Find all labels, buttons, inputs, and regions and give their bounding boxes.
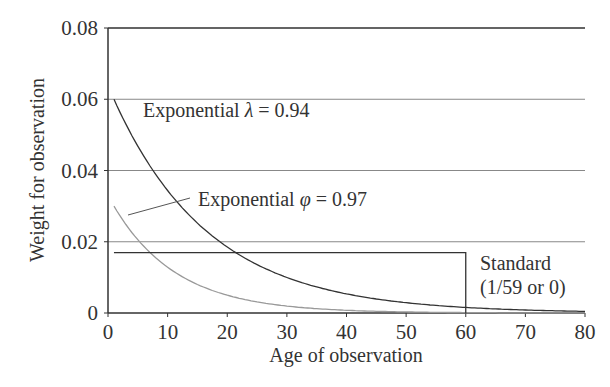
y-tick-label: 0.06	[61, 87, 98, 111]
x-tick-label: 80	[575, 320, 596, 344]
x-tick-label: 60	[455, 320, 476, 344]
y-tick-label: 0.02	[61, 230, 98, 254]
annotation-lambda: Exponential λ = 0.94	[143, 99, 310, 122]
x-tick-label: 10	[157, 320, 178, 344]
x-tick-label: 40	[336, 320, 357, 344]
annotation-phi: Exponential φ = 0.97	[198, 188, 367, 211]
x-axis-label: Age of observation	[269, 344, 422, 367]
x-tick-label: 50	[396, 320, 417, 344]
x-tick-label: 30	[276, 320, 297, 344]
y-axis-label: Weight for observation	[26, 78, 49, 262]
x-tick-label: 20	[217, 320, 238, 344]
y-tick-label: 0.08	[61, 16, 98, 40]
annotation-standard-sub: (1/59 or 0)	[480, 276, 566, 299]
x-tick-label: 70	[515, 320, 536, 344]
chart: 00.020.040.060.0801020304050607080 Age o…	[0, 0, 610, 387]
y-tick-label: 0	[88, 301, 99, 325]
y-tick-label: 0.04	[61, 159, 98, 183]
x-tick-label: 0	[103, 320, 114, 344]
annotation-standard: Standard	[480, 252, 551, 274]
